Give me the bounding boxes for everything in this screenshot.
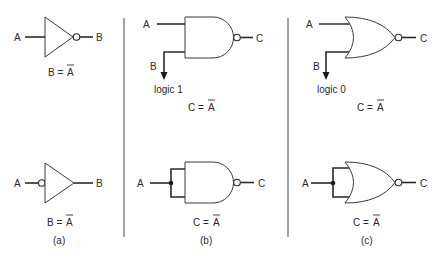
equation: C = A [353, 215, 380, 228]
equation: B = A [48, 65, 74, 78]
output-label-c: C [420, 33, 427, 44]
input-label-a: A [137, 178, 144, 189]
input-label-a: A [14, 32, 21, 43]
equation-rhs: A [67, 67, 74, 78]
nor-gate-icon [345, 162, 395, 203]
junction-dot-icon [169, 181, 174, 186]
not-gate-icon [45, 163, 74, 203]
nand-gate-icon [185, 17, 234, 58]
inversion-bubble-icon [395, 34, 402, 41]
input-label-a: A [143, 19, 150, 30]
panel-c-bottom-nor: A C C = A [302, 162, 427, 228]
output-label-c: C [256, 33, 263, 44]
equation-rhs: A [213, 217, 220, 228]
arrow-down-icon [161, 72, 168, 80]
input-label-b: B [313, 61, 320, 72]
panel-b: A B logic 1 C C = A A C [137, 17, 265, 246]
nor-gate-icon [345, 17, 395, 58]
inversion-bubble-icon [395, 179, 402, 186]
panel-b-bottom-nand: A C C = A [137, 162, 265, 228]
panel-c-top-nor: A B logic 0 C C = A [306, 17, 427, 113]
panel-caption-a: (a) [53, 235, 65, 246]
inversion-bubble-icon [234, 34, 241, 41]
input-label-a: A [306, 19, 313, 30]
equation-lhs: C = [193, 217, 209, 228]
inversion-bubble-icon [73, 34, 80, 41]
equation: C = A [193, 215, 220, 228]
equation: B = A [47, 215, 73, 228]
input-label-a: A [302, 178, 309, 189]
inverter-equivalents-diagram: A B B = A A B B = A (a) [0, 0, 439, 261]
equation-lhs: C = [353, 217, 369, 228]
panel-caption-b: (b) [200, 235, 212, 246]
equation: C = A [357, 100, 384, 113]
panel-a-bottom-inverter: A B B = A [14, 163, 103, 228]
inversion-bubble-icon [234, 179, 241, 186]
panel-a: A B B = A A B B = A (a) [14, 17, 103, 246]
equation-rhs: A [373, 217, 380, 228]
equation-rhs: A [66, 217, 73, 228]
tied-inputs-wire [333, 168, 350, 197]
input-label-b: B [150, 61, 157, 72]
output-label-b: B [96, 32, 103, 43]
input-wire-b [164, 52, 185, 74]
equation-lhs: B = [47, 217, 62, 228]
panel-b-top-nand: A B logic 1 C C = A [143, 17, 263, 113]
equation: C = A [188, 100, 215, 113]
inversion-bubble-icon [39, 180, 46, 187]
junction-dot-icon [331, 181, 336, 186]
equation-lhs: B = [48, 67, 63, 78]
output-label-c: C [258, 178, 265, 189]
panel-c: A B logic 0 C C = A A C [302, 17, 427, 246]
output-label-b: B [96, 178, 103, 189]
not-gate-icon [45, 17, 73, 57]
equation-lhs: C = [357, 102, 373, 113]
input-label-a: A [14, 178, 21, 189]
equation-rhs: A [377, 102, 384, 113]
panel-a-top-inverter: A B B = A [14, 17, 103, 78]
tie-label: logic 1 [154, 84, 183, 95]
equation-lhs: C = [188, 102, 204, 113]
nand-gate-icon [185, 162, 234, 203]
arrow-down-icon [323, 72, 330, 80]
tie-label: logic 0 [317, 84, 346, 95]
output-label-c: C [420, 178, 427, 189]
equation-rhs: A [208, 102, 215, 113]
panel-caption-c: (c) [361, 235, 373, 246]
